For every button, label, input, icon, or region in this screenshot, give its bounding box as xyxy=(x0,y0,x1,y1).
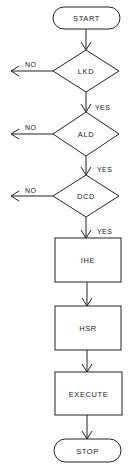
lkd-yes-label: YES xyxy=(95,104,110,111)
start-label: START xyxy=(73,14,100,23)
dcd-no-label: NO xyxy=(25,187,36,194)
execute-label: EXECUTE xyxy=(69,390,109,399)
ald-yes-label: YES xyxy=(97,166,112,173)
hsr-node: HSR xyxy=(55,306,121,350)
lkd-label: LKD xyxy=(78,67,94,76)
ald-node: ALD xyxy=(53,112,119,156)
dcd-label: DCD xyxy=(77,192,95,201)
ihe-node: IHE xyxy=(55,238,121,282)
ald-label: ALD xyxy=(78,130,94,139)
stop-node: STOP xyxy=(54,439,121,462)
ihe-label: IHE xyxy=(81,256,95,265)
dcd-node: DCD xyxy=(53,175,119,217)
start-node: START xyxy=(53,7,120,29)
lkd-node: LKD xyxy=(53,50,119,92)
dcd-yes-label: YES xyxy=(97,228,112,235)
hsr-label: HSR xyxy=(79,324,97,333)
flowchart: START LKD NO YES ALD NO YES DCD NO YES I… xyxy=(0,0,133,472)
execute-node: EXECUTE xyxy=(55,372,122,415)
ald-no-label: NO xyxy=(25,124,36,131)
stop-label: STOP xyxy=(76,447,99,456)
lkd-no-label: NO xyxy=(25,61,36,68)
